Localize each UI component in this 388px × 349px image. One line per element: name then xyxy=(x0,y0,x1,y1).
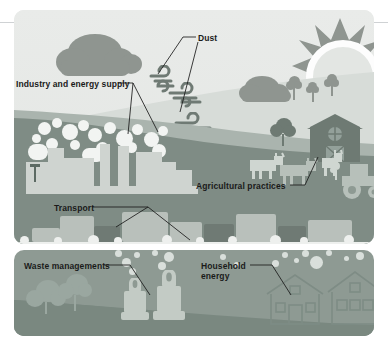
factory-icon xyxy=(26,118,206,204)
house-icon xyxy=(264,272,326,326)
label-industry-and-energy-supply: Industry and energy supply xyxy=(16,79,130,89)
label-household-energy: Household energy xyxy=(201,261,246,281)
waste-bin-icon xyxy=(120,278,150,322)
label-agricultural-practices: Agricultural practices xyxy=(196,181,286,191)
label-transport: Transport xyxy=(54,203,94,213)
road-line xyxy=(14,242,374,244)
house-icon xyxy=(326,268,374,326)
tree-icon xyxy=(330,162,342,180)
tree-icon xyxy=(58,274,92,312)
label-waste-managements: Waste managements xyxy=(24,261,110,271)
tree-icon xyxy=(270,118,296,146)
vehicle-icon xyxy=(122,212,168,242)
figure-canvas: Dust Industry and energy supply Agricult… xyxy=(0,0,388,349)
label-dust: Dust xyxy=(198,33,217,43)
waste-bin-icon xyxy=(152,270,186,322)
